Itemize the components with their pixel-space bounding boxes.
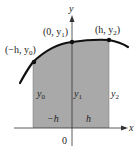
width-label-minus-h: −h [47, 113, 59, 124]
label-point-minus-h-y0: (−h, y0) [5, 44, 36, 57]
label-point-h-y2: (h, y2) [95, 24, 120, 37]
x-axis-arrow-icon [121, 126, 128, 131]
point-0-y1 [70, 40, 74, 44]
point-minus-h-y0 [32, 60, 36, 64]
x-axis-label: x [128, 122, 134, 133]
y-axis-label: y [68, 3, 74, 14]
point-h-y2 [107, 38, 111, 42]
origin-label: 0 [62, 135, 67, 146]
label-point-0-y1: (0, y1) [43, 26, 68, 39]
width-label-h: h [86, 113, 91, 124]
y-axis-arrow-icon [70, 15, 75, 22]
simpson-rule-diagram: y x 0 (−h, y0) (0, y1) (h, y2) y0 y1 y2 … [0, 0, 137, 154]
ordinate-label-y2: y2 [110, 88, 119, 101]
